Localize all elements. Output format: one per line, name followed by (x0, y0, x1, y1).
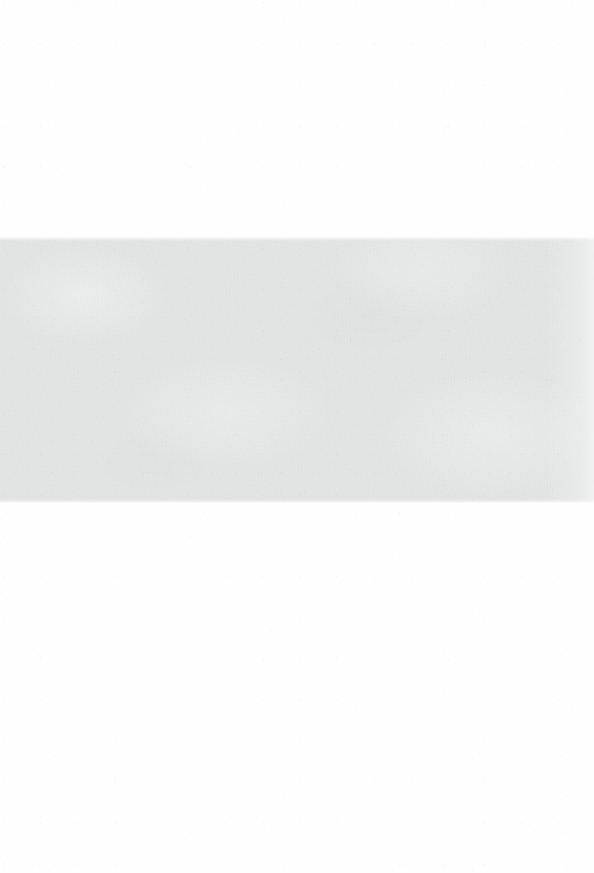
page-bottom-margin (0, 503, 594, 873)
band-fibre-texture (0, 237, 594, 503)
grey-band (0, 237, 594, 503)
band-mottle-texture (0, 237, 594, 503)
page-top-margin (0, 0, 594, 237)
scanned-page (0, 0, 594, 873)
